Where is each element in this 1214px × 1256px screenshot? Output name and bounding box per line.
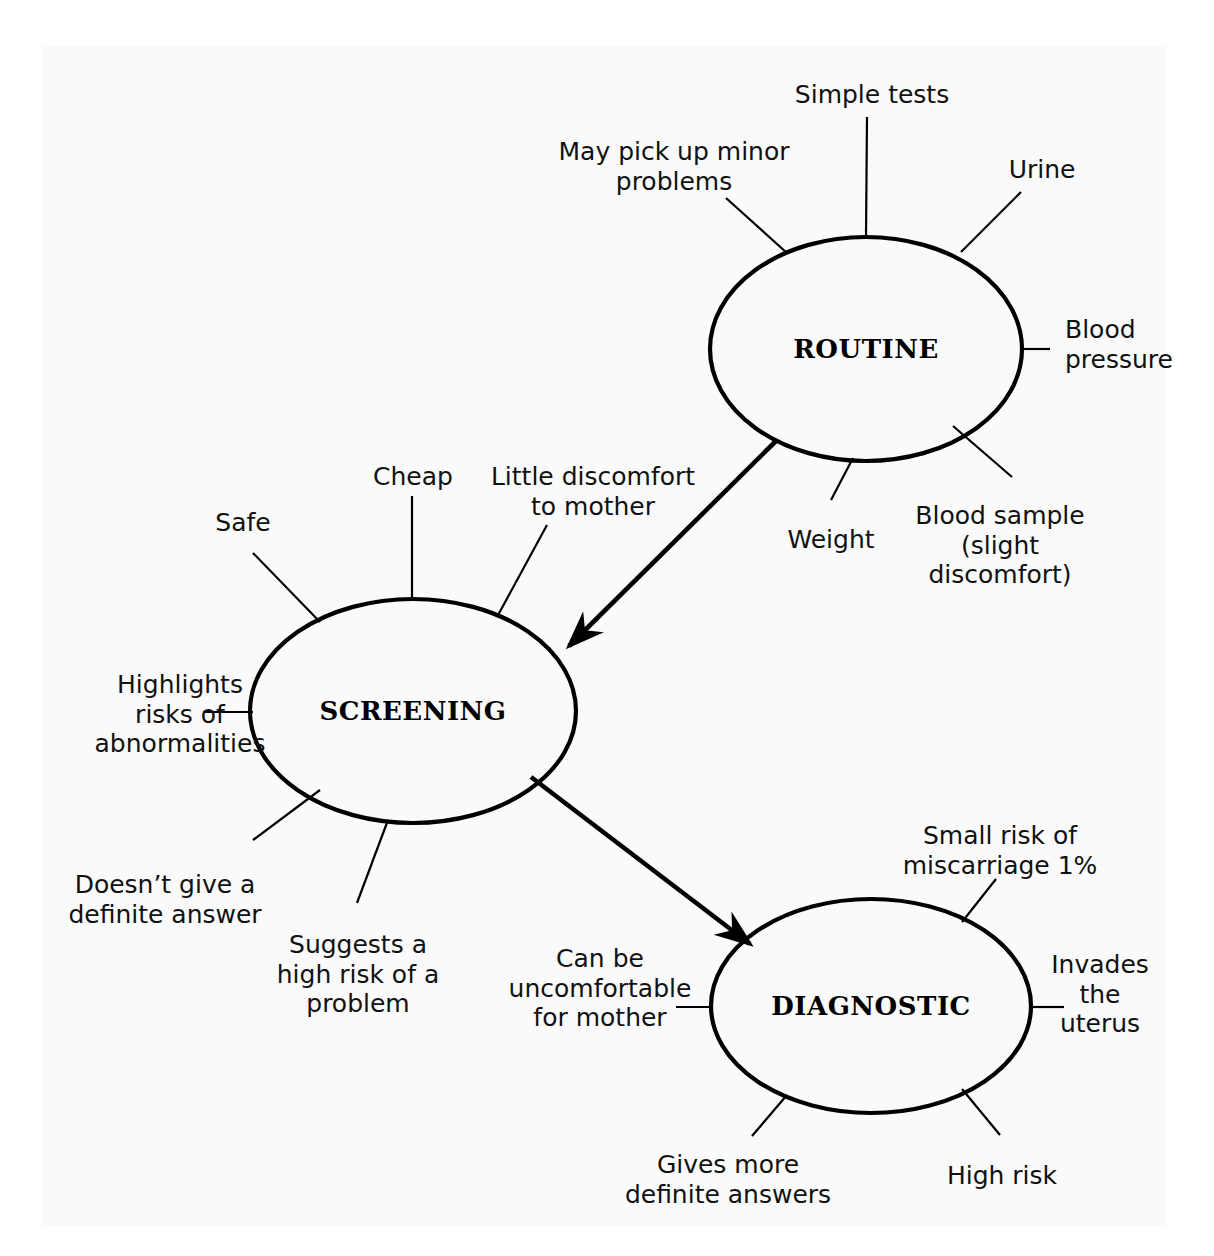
arrow-screening-to-diagnostic [531, 777, 750, 944]
leaf-label-can-be-uncomfortable: Can be uncomfortable for mother [509, 944, 692, 1033]
leader-line-simple-tests [866, 117, 867, 237]
node-label-routine: ROUTINE [793, 334, 939, 364]
leader-line-weight [831, 458, 853, 500]
leaf-label-may-pick-up-minor-problems: May pick up minor problems [559, 137, 790, 196]
leaf-label-safe: Safe [215, 508, 270, 538]
leaf-label-doesnt-give-definite-answer: Doesn’t give a definite answer [68, 870, 261, 929]
leaf-label-small-risk-miscarriage: Small risk of miscarriage 1% [903, 821, 1098, 880]
leader-line-safe [253, 553, 320, 622]
leaf-label-little-discomfort-to-mother: Little discomfort to mother [491, 462, 695, 521]
leaf-label-weight: Weight [787, 525, 874, 555]
leaf-label-blood-pressure: Blood pressure [1065, 315, 1173, 374]
leader-line-doesnt-give-definite-answer [253, 790, 320, 840]
node-label-diagnostic: DIAGNOSTIC [771, 991, 970, 1021]
leader-line-urine [961, 192, 1021, 252]
leader-line-high-risk [962, 1089, 1000, 1135]
leaf-label-simple-tests: Simple tests [795, 80, 949, 110]
leader-line-may-pick-up-minor-problems [726, 198, 787, 253]
leaf-label-urine: Urine [1009, 155, 1076, 185]
leader-line-suggests-high-risk [357, 820, 388, 903]
leader-line-little-discomfort-to-mother [497, 525, 547, 617]
leaf-label-highlights-risks: Highlights risks of abnormalities [95, 670, 266, 759]
leaf-label-high-risk: High risk [947, 1161, 1057, 1191]
leaf-label-suggests-high-risk: Suggests a high risk of a problem [277, 930, 440, 1019]
leaf-label-blood-sample: Blood sample (slight discomfort) [893, 501, 1107, 590]
leaf-label-gives-more-definite-answers: Gives more definite answers [625, 1150, 831, 1209]
diagram-page: ROUTINE SCREENING DIAGNOSTIC Simple test… [0, 0, 1214, 1256]
leader-line-small-risk-miscarriage [962, 879, 996, 922]
leader-line-gives-more-definite-answers [752, 1095, 787, 1136]
leaf-label-cheap: Cheap [373, 462, 453, 492]
leader-line-blood-sample [953, 426, 1012, 477]
node-label-screening: SCREENING [319, 696, 506, 726]
leaf-label-invades-the-uterus: Invades the uterus [1051, 950, 1149, 1039]
